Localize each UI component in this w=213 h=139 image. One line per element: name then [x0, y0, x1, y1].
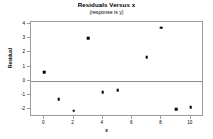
- x-axis-tick-label: 0: [42, 120, 45, 125]
- y-axis-tick-label: 0: [0, 77, 25, 82]
- x-axis-tick-label: 8: [159, 120, 162, 125]
- y-axis-tick-label: 1: [0, 63, 25, 68]
- y-axis-tick: [27, 66, 30, 67]
- x-axis-tick: [102, 116, 103, 119]
- y-axis-tick-label: 2: [0, 49, 25, 54]
- y-axis-tick-label: 3: [0, 35, 25, 40]
- residual-plot: Residuals Versus x (response is y) Resid…: [0, 0, 213, 139]
- y-axis-tick: [27, 37, 30, 38]
- x-axis-tick-label: 2: [71, 120, 74, 125]
- y-axis-tick: [27, 23, 30, 24]
- y-axis-tick: [27, 51, 30, 52]
- x-axis-tick-label: 4: [101, 120, 104, 125]
- y-axis-tick: [27, 108, 30, 109]
- y-axis-tick-label: 4: [0, 21, 25, 26]
- x-axis-tick-label: 6: [130, 120, 133, 125]
- x-axis-tick: [73, 116, 74, 119]
- x-axis-tick: [43, 116, 44, 119]
- y-axis-tick-label: -2: [0, 106, 25, 111]
- x-axis-tick: [160, 116, 161, 119]
- y-axis-tick: [27, 80, 30, 81]
- y-axis-tick-label: -1: [0, 92, 25, 97]
- axis-ticks-layer: 43210-1-20246810: [0, 0, 213, 139]
- x-axis-tick: [131, 116, 132, 119]
- y-axis-tick: [27, 94, 30, 95]
- x-axis-tick: [190, 116, 191, 119]
- x-axis-tick-label: 10: [187, 120, 192, 125]
